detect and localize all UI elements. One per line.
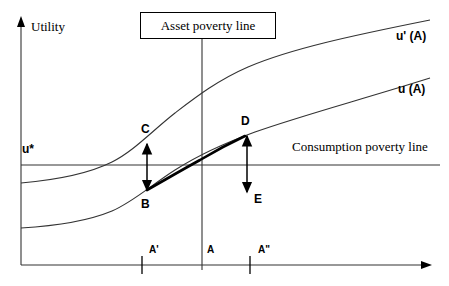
y-tick-label-ustar: u* [22, 143, 34, 155]
point-label-e: E [254, 193, 262, 205]
x-axis [21, 261, 432, 269]
diagram-canvas: Asset poverty line Utility u* Consumptio… [0, 0, 449, 286]
curve-u-prime [21, 20, 430, 183]
point-label-b: B [141, 198, 150, 210]
highlighted-segment-b-to-d [147, 136, 245, 190]
x-tick-label-a-prime: A' [149, 245, 159, 255]
curve-label-u-prime: u' (A) [396, 30, 426, 42]
x-axis-arrow-icon [421, 261, 432, 269]
x-tick-label-a: A [207, 245, 214, 255]
asset-poverty-line-label: Asset poverty line [161, 18, 256, 34]
y-axis-arrow-icon [17, 16, 25, 27]
x-tick-label-a-double-prime: A" [258, 245, 270, 255]
asset-poverty-line-box: Asset poverty line [140, 12, 276, 39]
point-label-d: D [241, 115, 250, 127]
consumption-poverty-line-label: Consumption poverty line [292, 140, 428, 153]
y-axis-label: Utility [31, 20, 65, 33]
curve-label-u: u (A) [398, 83, 425, 95]
point-label-c: C [141, 123, 150, 135]
